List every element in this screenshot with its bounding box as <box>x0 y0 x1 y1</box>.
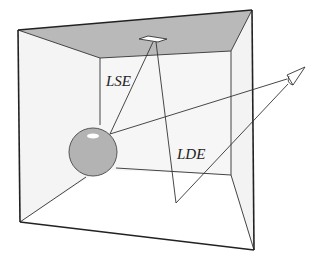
label-lde: LDE <box>177 147 205 162</box>
specular-sphere <box>69 128 117 176</box>
label-lse: LSE <box>106 74 131 89</box>
scene-canvas <box>0 0 323 262</box>
light-path-diagram: LSE LDE <box>0 0 323 262</box>
eye-icon <box>287 67 305 85</box>
sphere-highlight <box>87 133 99 138</box>
